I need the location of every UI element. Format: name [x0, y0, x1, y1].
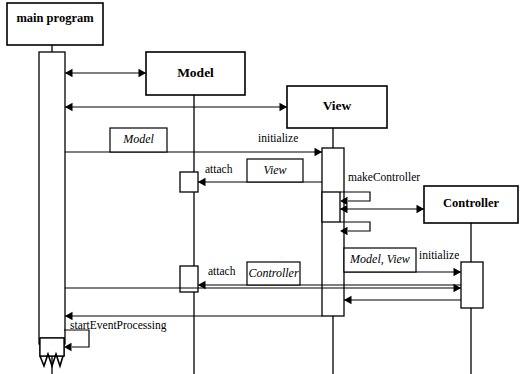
sequence-diagram-svg: initializeattachmakeControllerinitialize… [0, 0, 525, 374]
arrowhead-msg-create-model-start [65, 69, 73, 77]
participant-label-view: View [323, 98, 352, 113]
activation-main-activation [39, 52, 65, 344]
parameter-label-param-model: Model [122, 132, 154, 146]
parameter-label-param-model-view: Model, View [349, 252, 410, 266]
arrowhead-msg-controller-return-end [344, 296, 352, 304]
message-label-msg-view-makecontroller: makeController [348, 171, 420, 183]
arrowhead-msg-model-attach-view-end [198, 178, 206, 186]
activations-group [39, 52, 483, 356]
activation-view-initialize-activation [322, 148, 344, 316]
participant-label-model: Model [177, 65, 214, 80]
terminator-box [40, 338, 64, 356]
parameter-label-param-view: View [263, 163, 286, 177]
messages-group: initializeattachmakeControllerinitialize… [64, 69, 461, 351]
arrowhead-msg-create-model-end [139, 69, 147, 77]
arrowhead-msg-controller-initialize-end [454, 268, 462, 276]
message-label-msg-model-attach-view: attach [205, 163, 233, 175]
arrowhead-msg-create-view-end [280, 103, 288, 111]
message-path-msg-starteventprocessing [64, 330, 89, 347]
arrowhead-msg-view-controller-create-end [417, 205, 425, 213]
arrowhead-msg-create-view-start [65, 103, 73, 111]
participant-label-controller: Controller [443, 196, 499, 210]
message-label-msg-view-initialize: initialize [258, 132, 298, 144]
message-label-msg-model-attach-controller: attach [208, 265, 236, 277]
arrowhead-msg-view-initialize-end [315, 148, 323, 156]
message-label-msg-starteventprocessing: startEventProcessing [70, 319, 167, 332]
activation-model-attach-view-activation [180, 172, 198, 192]
participant-label-main-program: main program [16, 11, 94, 25]
sequence-diagram-canvas: initializeattachmakeControllerinitialize… [0, 0, 525, 374]
parameter-label-param-controller: Controller [248, 266, 299, 280]
participant-boxes-group: main programModelViewController [7, 3, 518, 223]
message-label-msg-controller-initialize: initialize [419, 249, 459, 261]
activation-view-makecontroller-activation [322, 192, 340, 222]
activation-controller-initialize-activation [461, 262, 483, 308]
